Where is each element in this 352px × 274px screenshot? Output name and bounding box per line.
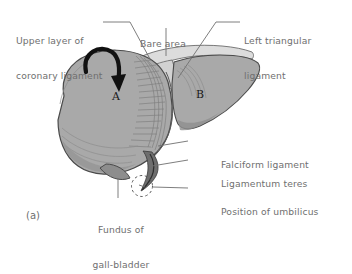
organ-label-b: B [196, 88, 204, 101]
position-of-umbilicus-marker [132, 176, 153, 197]
callout-bare-area: Bare area [140, 15, 186, 73]
callout-line-1: Position of umbilicus [221, 206, 319, 218]
callout-upper-layer-of-coronary-ligament: Upper layer of coronary ligament [16, 12, 103, 104]
callout-line-2: ligament [244, 70, 311, 82]
callout-line-2: coronary ligament [16, 70, 103, 82]
panel-id: (a) [26, 210, 40, 221]
leader-umbilicus [153, 187, 188, 188]
organ-label-a: A [112, 90, 120, 103]
callout-line-1: Fundus of [78, 224, 164, 236]
callout-left-triangular-ligament: Left triangular ligament [244, 12, 311, 104]
callout-line-1: Bare area [140, 38, 186, 50]
callout-fundus-of-gall-bladder: Fundus of gall-bladder [78, 201, 164, 274]
callout-line-1: Upper layer of [16, 35, 103, 47]
callout-line-1: Left triangular [244, 35, 311, 47]
callout-line-2: gall-bladder [78, 259, 164, 271]
callout-position-of-umbilicus: Position of umbilicus [221, 183, 319, 241]
